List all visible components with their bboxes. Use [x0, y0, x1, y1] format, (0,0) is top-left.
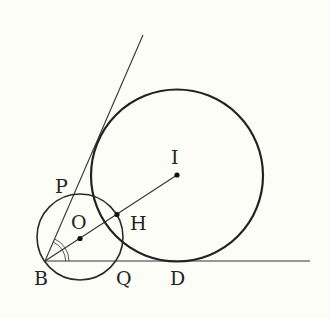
- angle-mark-lower: [62, 248, 69, 261]
- ray-bp: [45, 35, 143, 261]
- label-d: D: [170, 267, 185, 289]
- point-h: [114, 212, 119, 217]
- geometry-diagram: I P O H B Q D: [0, 0, 330, 318]
- label-b: B: [34, 267, 48, 289]
- label-o: O: [71, 211, 87, 233]
- label-q: Q: [116, 267, 132, 289]
- label-p: P: [55, 175, 68, 197]
- point-o: [77, 236, 82, 241]
- angle-mark-upper: [53, 239, 65, 250]
- label-h: H: [130, 212, 147, 234]
- point-i: [174, 172, 179, 177]
- label-i: I: [171, 146, 179, 168]
